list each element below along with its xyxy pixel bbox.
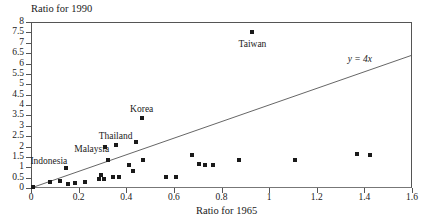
x-tick-label: 0.6 [159,192,189,202]
x-tick-label: 0.2 [64,192,94,202]
data-point [31,185,35,189]
chart-figure: Ratio for 1990 00.511.522.533.544.555.56… [0,0,437,224]
data-point [97,177,101,181]
y-tick-label: 5 [0,79,24,88]
data-point [355,152,359,156]
x-tick-label: 0.4 [111,192,141,202]
y-tick-label: 0.5 [0,173,24,182]
y-tick-label: 1 [0,162,24,171]
y-tick-mark [26,105,31,106]
y-tick-mark [26,32,31,33]
reference-line-label: y = 4x [348,54,372,64]
y-tick-label: 4.5 [0,90,24,99]
y-tick-mark [26,115,31,116]
data-point [164,175,168,179]
y-tick-label: 4 [0,100,24,109]
y-tick-label: 6.5 [0,48,24,57]
data-point [141,158,145,162]
data-point [106,158,110,162]
y-tick-label: 2.5 [0,131,24,140]
x-tick-label: 1.6 [397,192,427,202]
x-tick-label: 1.4 [349,192,379,202]
data-point [83,180,87,184]
data-point-indonesia [64,166,68,170]
y-tick-mark [26,126,31,127]
data-point [58,179,62,183]
y-tick-label: 7.5 [0,27,24,36]
y-tick-label: 2 [0,142,24,151]
y-tick-label: 6 [0,59,24,68]
data-point [73,181,77,185]
data-point [203,163,207,167]
data-point-taiwan [250,30,254,34]
y-tick-mark [26,147,31,148]
y-tick-label: 0 [0,183,24,192]
x-tick-label: 0 [16,192,46,202]
x-axis-label: Ratio for 1965 [196,205,257,216]
data-point [293,158,297,162]
data-point [368,153,372,157]
y-tick-mark [26,22,31,23]
x-tick-label: 1.2 [302,192,332,202]
annotation-indonesia: Indonesia [30,156,67,166]
data-point [48,180,52,184]
annotation-thailand: Thailand [99,131,133,141]
y-tick-mark [26,64,31,65]
x-tick-label: 0.8 [207,192,237,202]
y-tick-mark [26,167,31,168]
data-point [66,182,70,186]
plot-area: 00.511.522.533.544.555.566.577.58 00.20.… [31,22,412,188]
data-point [117,175,121,179]
y-tick-label: 7 [0,38,24,47]
y-tick-mark [26,84,31,85]
data-point [190,153,194,157]
data-point [197,162,201,166]
x-tick-label: 1 [254,192,284,202]
reference-line-y-equals-4x [31,55,412,188]
y-tick-mark [26,136,31,137]
y-tick-mark [26,95,31,96]
y-tick-label: 8 [0,17,24,26]
data-point [211,163,215,167]
data-point [127,163,131,167]
y-tick-mark [26,43,31,44]
y-tick-label: 3 [0,121,24,130]
data-point [131,169,135,173]
data-point [102,177,106,181]
data-point [134,140,138,144]
data-point [111,175,115,179]
reference-line-layer [31,22,412,188]
y-tick-label: 1.5 [0,152,24,161]
y-tick-mark [26,178,31,179]
annotation-korea: Korea [130,104,153,114]
data-point-korea [140,116,144,120]
y-tick-mark [26,53,31,54]
annotation-taiwan: Taiwan [239,39,267,49]
data-point-thailand [114,143,118,147]
data-point [174,175,178,179]
y-tick-label: 5.5 [0,69,24,78]
annotation-malaysia: Malaysia [74,144,109,154]
data-point [237,158,241,162]
y-tick-label: 3.5 [0,110,24,119]
y-axis-label: Ratio for 1990 [31,3,92,14]
y-tick-mark [26,74,31,75]
